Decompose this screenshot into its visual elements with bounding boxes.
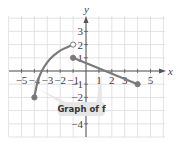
- x-tick-label: 2: [109, 74, 115, 86]
- y-tick-label: 2: [78, 39, 84, 51]
- x-tick-label: −2: [54, 74, 66, 86]
- x-tick-label: 5: [148, 74, 154, 86]
- y-axis-arrow-icon: [84, 16, 89, 23]
- x-tick-label: −3: [41, 74, 53, 86]
- y-tick-label: −4: [71, 118, 83, 130]
- open-endpoint: [71, 42, 76, 47]
- closed-endpoint: [135, 82, 140, 87]
- x-axis-arrow-icon: [159, 69, 166, 74]
- x-axis-label: x: [167, 65, 173, 77]
- y-axis-label: y: [83, 3, 89, 15]
- closed-endpoint: [71, 55, 76, 60]
- y-tick-label: −2: [71, 91, 83, 103]
- function-graph: xy −5−4−3−2−11235321−1−2−4 Graph of f: [0, 0, 181, 147]
- closed-endpoint: [32, 95, 37, 100]
- y-tick-label: 3: [78, 25, 84, 37]
- callout-label: Graph of f: [57, 104, 105, 114]
- y-tick-label: −1: [71, 78, 83, 90]
- axes: xy: [9, 3, 173, 137]
- x-tick-label: −5: [16, 74, 28, 86]
